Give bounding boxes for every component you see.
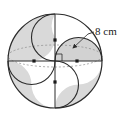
- measurement-label: 8 cm: [95, 25, 117, 37]
- dot-top: [53, 38, 56, 41]
- dot-right: [75, 59, 78, 62]
- dot-bottom: [53, 80, 56, 83]
- geometry-figure: 8 cm: [0, 0, 132, 116]
- dot-left: [32, 59, 35, 62]
- figure-canvas: 8 cm: [0, 0, 132, 116]
